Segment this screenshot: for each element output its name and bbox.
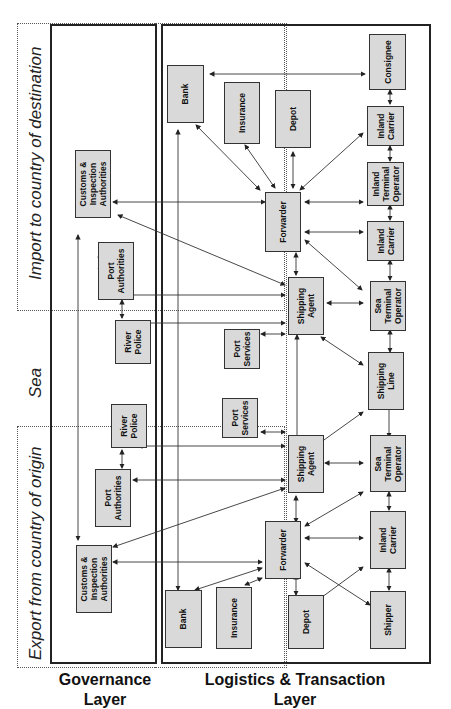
node-export-insurance: Insurance [216,587,252,649]
node-shipping-line: Shipping Line [368,352,404,410]
node-import-shipping-agent: Shipping Agent [288,277,324,335]
node-export-port-services: Port Services [222,398,258,438]
node-import-inland-carrier-1: Inland Carrier [367,106,404,146]
node-export-shipper: Shipper [370,591,406,649]
node-import-river-police: River Police [115,320,151,364]
node-import-depot: Depot [275,90,311,148]
node-export-shipping-agent: Shipping Agent [288,435,324,493]
node-export-customs-authorities: Customs & Inspection Authorities [76,545,112,613]
node-import-customs-authorities: Customs & Inspection Authorities [75,150,111,218]
node-import-port-services: Port Services [224,329,260,369]
node-export-depot: Depot [288,595,324,649]
node-import-insurance: Insurance [224,82,260,144]
node-export-bank: Bank [165,590,202,648]
node-import-inland-terminal-operator: Inland Terminal Operator [367,162,404,206]
node-import-inland-carrier-2: Inland Carrier [367,221,404,261]
node-import-bank: Bank [167,65,204,123]
node-import-forwarder: Forwarder [265,192,301,252]
logistics-layer-label: Logistics & Transaction Layer [160,670,430,709]
node-export-river-police: River Police [111,404,147,448]
node-import-sea-terminal-operator: Sea Terminal Operator [370,281,406,331]
node-import-port-authorities: Port Authorities [98,242,134,300]
node-export-port-authorities: Port Authorities [95,469,131,527]
node-export-inland-carrier: Inland Carrier [370,511,406,569]
node-export-sea-terminal-operator: Sea Terminal Operator [370,435,406,492]
node-export-forwarder: Forwarder [265,521,301,579]
governance-layer-label: Governance Layer [50,670,160,709]
node-import-consignee: Consignee [369,34,406,90]
